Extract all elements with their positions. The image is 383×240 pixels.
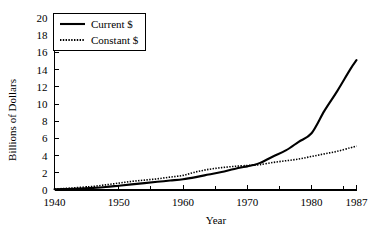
y-tick-label: 4 — [42, 150, 48, 162]
y-tick-label: 8 — [42, 115, 48, 127]
y-tick-label: 20 — [37, 12, 49, 24]
y-axis-tick-labels: 02468101214161820 — [37, 12, 49, 196]
y-tick-label: 16 — [37, 46, 49, 58]
y-tick-label: 2 — [42, 167, 48, 179]
x-tick-label: 1970 — [236, 196, 259, 208]
x-axis-tick-labels: 194019501960197019801987 — [44, 196, 369, 208]
legend-label-current: Current $ — [91, 18, 133, 30]
x-tick-label: 1940 — [44, 196, 67, 208]
chart-legend: Current $ Constant $ — [54, 14, 146, 51]
y-tick-label: 18 — [37, 29, 49, 41]
series-line-constant — [55, 146, 357, 189]
y-tick-label: 14 — [37, 64, 49, 76]
x-axis-title: Year — [206, 214, 227, 226]
x-tick-label: 1980 — [301, 196, 324, 208]
x-tick-label: 1960 — [172, 196, 195, 208]
x-tick-label: 1950 — [108, 196, 131, 208]
line-chart: 02468101214161820 1940195019601970198019… — [0, 0, 383, 240]
y-tick-label: 12 — [37, 81, 48, 93]
y-axis-title: Billions of Dollars — [6, 79, 18, 161]
y-tick-label: 0 — [42, 184, 48, 196]
chart-container: 02468101214161820 1940195019601970198019… — [0, 0, 383, 240]
y-tick-label: 10 — [37, 98, 49, 110]
x-tick-label: 1987 — [346, 196, 369, 208]
legend-label-constant: Constant $ — [91, 34, 139, 46]
y-tick-label: 6 — [42, 132, 48, 144]
